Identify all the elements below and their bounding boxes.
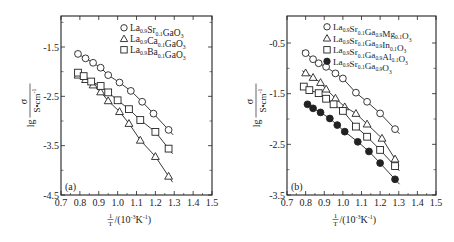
square-marker [323,95,330,102]
x-tick-label: 1.0 [111,197,124,208]
y-label-unit: S•cm-1 [257,88,268,112]
y-tick-label: -2.5 [43,91,59,102]
circle-marker [165,126,172,133]
y-label-unit: S•cm-1 [31,88,42,112]
chart-panel-a: 0.70.80.91.01.11.21.31.41.5-1.5-2.5-3.5-… [18,16,218,228]
y-label-lg: lg [251,120,262,128]
filled-circle-marker [377,160,384,167]
square-marker [315,90,322,97]
y-tick-label: -4.5 [43,190,59,201]
triangle-marker [323,35,330,41]
square-marker [339,107,346,114]
square-marker [80,73,87,80]
circle-marker [150,110,157,117]
square-marker [165,145,172,152]
y-axis-label: lgσS•cm-1 [244,84,268,128]
x-tick-label: 1.3 [393,197,406,208]
circle-marker [90,59,97,66]
filled-circle-marker [317,109,324,116]
filled-circle-marker [324,58,330,64]
x-label-T: T [108,220,113,228]
circle-marker [377,110,384,117]
square-marker [324,47,330,53]
triangle-marker [309,74,317,81]
y-tick-label: -1.5 [269,88,285,99]
square-marker [377,147,384,154]
square-marker [126,106,133,113]
x-tick-label: 0.9 [318,197,331,208]
square-marker [364,133,371,140]
x-tick-label: 0.9 [93,197,106,208]
data-series [300,83,399,171]
legend: La0.9Sr0.1GaO3La0.9Ca0.1GaO3La0.9Ba0.1Ga… [120,23,185,61]
x-label-one: 1 [334,212,338,220]
circle-marker [139,98,146,105]
y-tick-label: -2.5 [269,139,285,150]
x-tick-label: 0.8 [74,197,87,208]
x-tick-label: 1.1 [130,197,143,208]
x-tick-label: 1.0 [337,197,350,208]
x-tick-label: 1.5 [206,197,219,208]
filled-circle-marker [354,138,361,145]
circle-marker [75,51,82,58]
x-axis-label: 1T/(10-3K-1) [108,212,152,228]
circle-marker [339,75,346,82]
data-series [74,71,173,182]
circle-marker [364,98,371,105]
circle-marker [392,126,399,133]
data-series [75,51,174,135]
circle-marker [324,24,330,30]
data-series [75,69,173,153]
circle-marker [127,88,134,95]
square-marker [392,163,399,170]
y-label-sigma: σ [18,98,29,104]
x-tick-label: 1.4 [411,197,424,208]
figure: 0.70.80.91.01.11.21.31.41.5-1.5-2.5-3.5-… [0,0,454,242]
y-tick-label: -3.5 [43,140,59,151]
filled-circle-marker [334,122,341,129]
x-label-units: /(10-3K-1) [115,214,152,226]
y-tick-label: -0.5 [269,38,285,49]
data-series [302,69,399,165]
x-tick-label: 1.4 [187,197,200,208]
series-line [75,52,174,135]
filled-circle-marker [341,128,348,135]
x-tick-label: 1.1 [355,197,368,208]
circle-marker [332,70,339,77]
square-marker [105,89,112,96]
circle-marker [105,72,112,79]
y-label-lg: lg [25,120,36,128]
square-marker [88,78,95,85]
triangle-marker [352,110,360,117]
y-tick-label: -3.5 [269,190,285,201]
square-marker [353,123,360,130]
x-tick-label: 1.2 [374,197,387,208]
circle-marker [121,25,127,31]
triangle-marker [136,136,144,143]
x-tick-label: 1.2 [149,197,162,208]
x-axis-label: 1T/(10-3K-1) [333,212,377,228]
square-marker [137,117,144,124]
panel-label: (a) [65,181,76,193]
filled-circle-marker [326,115,333,122]
y-tick-label: -1.5 [43,42,59,53]
x-label-units: /(10-3K-1) [340,214,377,226]
square-marker [121,47,127,53]
square-marker [152,128,159,135]
circle-marker [97,64,104,71]
filled-circle-marker [366,148,373,155]
circle-marker [82,55,89,62]
square-marker [114,97,121,104]
x-label-T: T [333,220,338,228]
x-label-one: 1 [109,212,113,220]
chart-panel-b: 0.70.80.91.01.11.21.31.41.5-0.5-1.5-2.5-… [244,16,442,228]
legend: La0.9Sr0.1Ga0.9Mg0.1O3La0.9Sr0.1Ga0.9In0… [323,22,411,75]
series-line [75,73,173,182]
circle-marker [302,50,309,57]
panel-label: (b) [291,181,303,193]
square-marker [330,101,337,108]
series-line [301,85,399,171]
circle-marker [353,89,360,96]
triangle-marker [120,35,127,41]
triangle-marker [317,79,325,86]
